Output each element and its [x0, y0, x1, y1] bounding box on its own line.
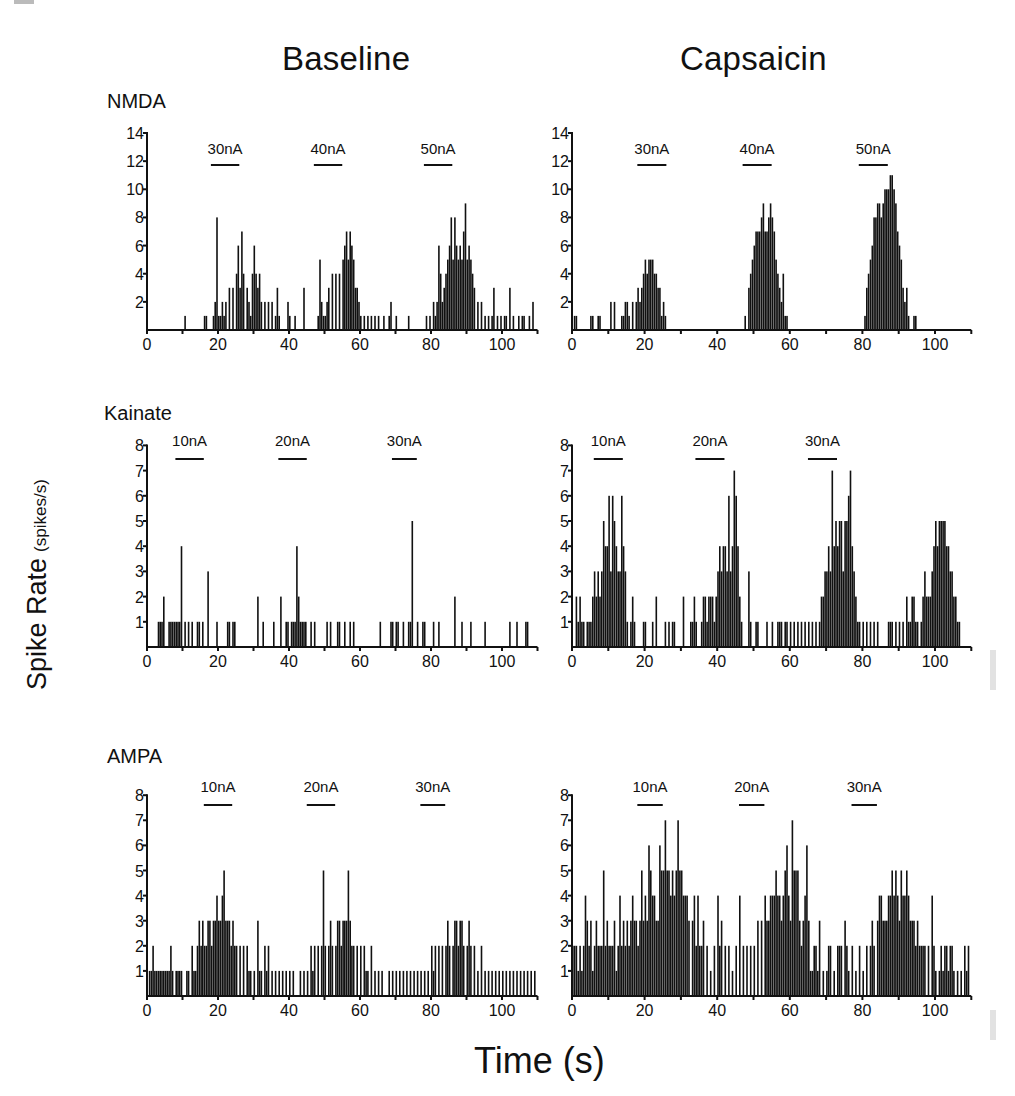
x-tick-label: 80 — [854, 1002, 872, 1019]
histogram-bar — [757, 921, 759, 996]
histogram-bar — [919, 946, 921, 996]
histogram-bar — [594, 946, 596, 996]
histogram-bar — [608, 946, 610, 996]
histogram-bar — [670, 896, 672, 996]
histogram-bar — [592, 971, 594, 996]
x-tick-label: 0 — [568, 1002, 577, 1019]
y-tick-label: 1 — [560, 963, 569, 980]
histogram-bar — [886, 921, 888, 996]
histogram-bar — [685, 896, 687, 996]
histogram-bar — [706, 946, 708, 996]
histogram-bar — [725, 946, 727, 996]
histogram-bar — [944, 946, 946, 996]
histogram-bar — [819, 921, 821, 996]
histogram-bar — [639, 921, 641, 996]
histogram-bar — [795, 871, 797, 997]
histogram-bar — [768, 921, 770, 996]
histogram-bar — [599, 946, 601, 996]
histogram-bar — [764, 896, 766, 996]
histogram-bar — [628, 946, 630, 996]
histogram-bar — [928, 946, 930, 996]
histogram-bar — [703, 921, 705, 996]
histogram-bar — [844, 921, 846, 996]
histogram-bar — [648, 845, 650, 996]
histogram-bar — [596, 921, 598, 996]
stimulus-label: 30nA — [847, 778, 882, 795]
histogram-bar — [683, 896, 685, 996]
histogram-bar — [641, 871, 643, 997]
histogram-bar — [614, 921, 616, 996]
histogram-bar — [890, 896, 892, 996]
histogram-bar — [679, 871, 681, 997]
histogram-bar — [940, 946, 942, 996]
histogram-bar — [968, 946, 970, 996]
histogram-bar — [710, 971, 712, 996]
histogram-bar — [882, 921, 884, 996]
histogram-bar — [786, 845, 788, 996]
histogram-bar — [917, 921, 919, 996]
histogram-bar — [750, 946, 752, 996]
x-tick-label: 100 — [922, 1002, 949, 1019]
histogram-bar — [793, 871, 795, 997]
x-tick-label: 60 — [781, 1002, 799, 1019]
histogram-bar — [931, 896, 933, 996]
histogram-bar — [877, 921, 879, 996]
histogram-bar — [770, 896, 772, 996]
histogram-bar — [645, 896, 647, 996]
histogram-bar — [852, 946, 854, 996]
histogram-bar — [601, 946, 603, 996]
histogram-bar — [775, 871, 777, 997]
histogram-bar — [714, 946, 716, 996]
histogram-bar — [732, 971, 734, 996]
histogram-bar — [826, 971, 828, 996]
histogram-bar — [650, 871, 652, 997]
histogram-bar — [619, 896, 621, 996]
histogram-bar — [779, 896, 781, 996]
histogram-bar — [817, 971, 819, 996]
histogram-bar — [901, 871, 903, 997]
panel-ampa-capsaicin: 0204060801001234567810nA20nA30nA — [0, 0, 1015, 1096]
histogram-bar — [627, 921, 629, 996]
histogram-bar — [663, 871, 665, 997]
histogram-bar — [701, 946, 703, 996]
y-tick-label: 7 — [560, 812, 569, 829]
histogram-bar — [630, 921, 632, 996]
histogram-bar — [694, 896, 696, 996]
histogram-bar — [830, 946, 832, 996]
histogram-bar — [957, 971, 959, 996]
histogram-bar — [960, 971, 962, 996]
histogram-bar — [801, 946, 803, 996]
histogram-bar — [946, 946, 948, 996]
histogram-bar — [643, 921, 645, 996]
stimulus-label: 10nA — [633, 778, 668, 795]
histogram-bar — [823, 971, 825, 996]
histogram-bar — [792, 820, 794, 996]
histogram-bar — [719, 946, 721, 996]
histogram-bar — [828, 946, 830, 996]
histogram-bar — [686, 896, 688, 996]
histogram-bar — [859, 946, 861, 996]
x-tick-label: 20 — [636, 1002, 654, 1019]
histogram-bar — [621, 946, 623, 996]
histogram-bar — [841, 946, 843, 996]
histogram-bar — [665, 820, 667, 996]
histogram-bar — [617, 946, 619, 996]
histogram-bar — [634, 921, 636, 996]
histogram-bar — [942, 971, 944, 996]
histogram-bar — [652, 896, 654, 996]
histogram-bar — [777, 896, 779, 996]
histogram-bar — [616, 971, 618, 996]
histogram-bar — [924, 946, 926, 996]
histogram-bar — [766, 921, 768, 996]
histogram-bar — [674, 896, 676, 996]
histogram-bar — [951, 946, 953, 996]
y-tick-label: 3 — [560, 913, 569, 930]
histogram-bar — [804, 896, 806, 996]
histogram-bar — [588, 946, 590, 996]
histogram-bar — [810, 971, 812, 996]
stimulus-label: 20nA — [734, 778, 769, 795]
histogram-bar — [668, 871, 670, 997]
histogram-bars — [572, 820, 969, 996]
histogram-bar — [610, 946, 612, 996]
histogram-bar — [806, 845, 808, 996]
